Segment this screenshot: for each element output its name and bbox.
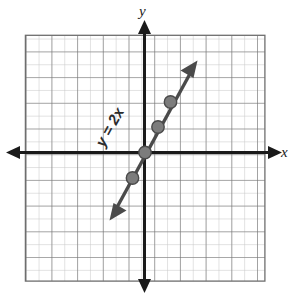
- data-point: [126, 172, 138, 184]
- graph-canvas: y x y = 2x: [0, 0, 290, 297]
- x-axis-arrow-right: [268, 146, 282, 159]
- x-axis-label: x: [280, 144, 288, 160]
- coordinate-graph-figure: y x y = 2x: [0, 0, 290, 297]
- y-axis-label: y: [137, 3, 146, 19]
- data-point: [152, 121, 164, 133]
- x-axis-arrow-left: [6, 146, 20, 159]
- data-point: [139, 146, 151, 158]
- y-axis-arrow-down: [138, 279, 151, 293]
- data-point: [164, 96, 176, 108]
- y-axis-arrow-up: [138, 20, 151, 34]
